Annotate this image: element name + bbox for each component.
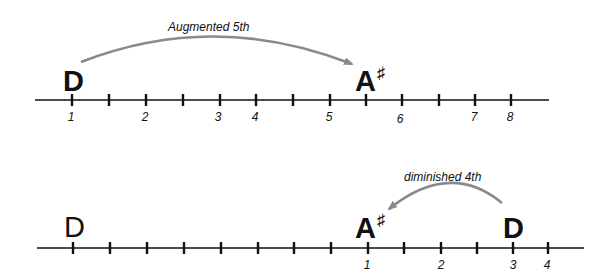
bottom-start-note: D [503, 214, 524, 243]
top-start-note: D [63, 67, 84, 96]
top-number-7: 7 [471, 110, 478, 124]
top-number-8: 8 [507, 110, 514, 124]
bottom-number-line [37, 242, 584, 254]
top-number-5: 5 [326, 110, 333, 124]
top-number-1: 1 [68, 110, 75, 124]
bottom-number-1: 1 [364, 258, 371, 272]
top-number-3: 3 [215, 110, 222, 124]
top-number-2: 2 [142, 110, 149, 124]
top-number-4: 4 [252, 110, 259, 124]
diminished-fourth-label: diminished 4th [404, 170, 481, 184]
bottom-number-3: 3 [510, 258, 517, 272]
augmented-fifth-arrow [81, 36, 352, 64]
top-number-6: 6 [397, 112, 404, 126]
sharp-icon: ♯ [377, 64, 385, 81]
diminished-fourth-arrow [389, 183, 502, 209]
bottom-reference-note: D [64, 213, 85, 242]
bottom-number-4: 4 [544, 258, 551, 272]
top-number-line [35, 94, 549, 106]
augmented-fifth-label: Augmented 5th [168, 20, 249, 34]
bottom-number-2: 2 [438, 258, 445, 272]
top-end-note: A♯ [355, 67, 385, 96]
sharp-icon: ♯ [377, 211, 385, 228]
bottom-end-note: A♯ [355, 214, 385, 243]
